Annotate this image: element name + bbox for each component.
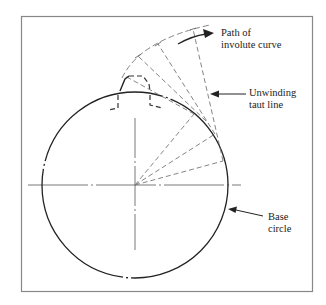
- label-unwinding-taut-line: Unwinding taut line: [249, 87, 296, 111]
- tooth-profile-dashed: [129, 76, 150, 91]
- label-base-circle: Base circle: [268, 211, 291, 235]
- taut-lines: [125, 29, 223, 161]
- involute-ticks: [135, 28, 196, 58]
- tooth-profile-solid: [120, 76, 129, 91]
- base-circle-pointer: [236, 210, 263, 216]
- involute-arrow-shaft: [178, 34, 206, 44]
- tooth-root-left: [108, 95, 118, 110]
- radial-lines: [135, 114, 223, 185]
- label-path-of-involute: Path of involute curve: [221, 27, 281, 51]
- taut-line-arrowhead: [210, 91, 219, 98]
- tooth-root-right: [150, 95, 162, 108]
- base-circle-arrowhead: [228, 207, 237, 214]
- involute-curve: [122, 25, 210, 78]
- involute-arrow-head: [203, 29, 214, 38]
